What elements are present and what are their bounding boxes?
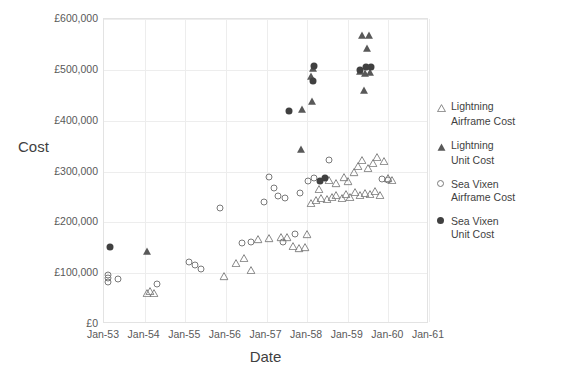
legend-label-line1: Sea Vixen bbox=[451, 215, 499, 228]
y-tick-label: £400,000 bbox=[8, 114, 98, 126]
data-point bbox=[379, 151, 388, 169]
legend-label-line1: Lightning bbox=[451, 139, 494, 152]
circle-open-icon bbox=[437, 178, 447, 187]
data-point bbox=[216, 205, 223, 212]
data-point bbox=[385, 177, 392, 184]
data-point bbox=[298, 99, 307, 117]
y-axis-title: Cost bbox=[18, 138, 49, 155]
gridline-horizontal bbox=[104, 172, 427, 173]
gridline-horizontal bbox=[104, 70, 427, 71]
data-point bbox=[368, 64, 375, 71]
data-point bbox=[261, 199, 268, 206]
data-point bbox=[279, 238, 286, 245]
data-point bbox=[239, 239, 246, 246]
data-point bbox=[265, 173, 272, 180]
data-point bbox=[376, 185, 385, 203]
data-point bbox=[153, 281, 160, 288]
y-tick-label: £500,000 bbox=[8, 63, 98, 75]
scatter-chart: Cost £0£100,000£200,000£300,000£400,000£… bbox=[0, 0, 566, 384]
data-point bbox=[308, 91, 317, 109]
x-axis-title: Date bbox=[103, 348, 428, 365]
data-point bbox=[270, 184, 277, 191]
data-point bbox=[264, 229, 273, 247]
gridline-vertical bbox=[185, 19, 186, 322]
x-tick-label: Jan-61 bbox=[393, 328, 463, 340]
legend-label-line2: Airframe Cost bbox=[437, 115, 562, 128]
gridline-horizontal bbox=[104, 222, 427, 223]
data-point bbox=[303, 225, 312, 243]
y-tick-label: £300,000 bbox=[8, 165, 98, 177]
data-point bbox=[291, 230, 298, 237]
legend-label-line1: Lightning bbox=[451, 100, 494, 113]
data-point bbox=[296, 189, 303, 196]
circle-filled-icon bbox=[437, 215, 447, 224]
gridline-vertical bbox=[267, 19, 268, 322]
data-point bbox=[322, 174, 329, 181]
data-point bbox=[363, 38, 372, 56]
legend-label-line2: Unit Cost bbox=[437, 154, 562, 167]
y-tick-label: £600,000 bbox=[8, 12, 98, 24]
legend-label-line2: Airframe Cost bbox=[437, 191, 562, 204]
y-tick-label: £200,000 bbox=[8, 215, 98, 227]
gridline-vertical bbox=[429, 19, 430, 322]
data-point bbox=[281, 194, 288, 201]
data-point bbox=[360, 80, 369, 98]
data-point bbox=[142, 241, 151, 259]
data-point bbox=[115, 276, 122, 283]
legend-entry[interactable]: LightningAirframe Cost bbox=[437, 100, 562, 128]
gridline-horizontal bbox=[104, 273, 427, 274]
data-point bbox=[326, 157, 333, 164]
triangle-filled-icon bbox=[437, 139, 447, 154]
data-point bbox=[356, 66, 363, 73]
gridline-horizontal bbox=[104, 121, 427, 122]
gridline-horizontal bbox=[104, 19, 427, 20]
data-point bbox=[285, 107, 292, 114]
gridline-vertical bbox=[145, 19, 146, 322]
legend-entry[interactable]: LightningUnit Cost bbox=[437, 139, 562, 167]
legend-entry[interactable]: Sea VixenAirframe Cost bbox=[437, 178, 562, 204]
data-point bbox=[311, 62, 318, 69]
chart-legend: LightningAirframe CostLightningUnit Cost… bbox=[437, 100, 562, 252]
legend-label-line1: Sea Vixen bbox=[451, 178, 499, 191]
data-point bbox=[274, 192, 281, 199]
data-point bbox=[254, 230, 263, 248]
data-point bbox=[343, 172, 352, 190]
data-point bbox=[105, 271, 112, 278]
y-tick-label: £100,000 bbox=[8, 266, 98, 278]
data-point bbox=[219, 267, 228, 285]
triangle-open-icon bbox=[437, 100, 447, 115]
plot-area bbox=[103, 18, 428, 323]
data-point bbox=[107, 243, 114, 250]
data-point bbox=[197, 266, 204, 273]
legend-entry[interactable]: Sea VixenUnit Cost bbox=[437, 215, 562, 241]
data-point bbox=[248, 238, 255, 245]
data-point bbox=[310, 78, 317, 85]
data-point bbox=[297, 140, 306, 158]
data-point bbox=[247, 260, 256, 278]
legend-label-line2: Unit Cost bbox=[437, 228, 562, 241]
